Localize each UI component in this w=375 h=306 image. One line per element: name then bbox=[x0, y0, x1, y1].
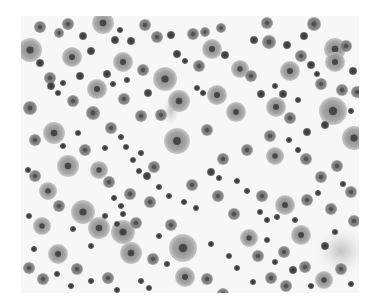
medium-cell bbox=[155, 109, 167, 121]
medium-cell bbox=[265, 272, 277, 284]
medium-cell bbox=[79, 144, 91, 156]
medium-cell bbox=[245, 70, 257, 82]
large-cell bbox=[90, 161, 108, 179]
small-cell bbox=[234, 265, 240, 271]
medium-cell bbox=[118, 93, 130, 105]
small-cell bbox=[87, 47, 95, 55]
small-cell bbox=[114, 287, 120, 293]
large-cell bbox=[325, 52, 345, 72]
small-cell bbox=[315, 190, 321, 196]
small-cell bbox=[88, 278, 94, 284]
medium-cell bbox=[29, 170, 41, 182]
large-cell bbox=[88, 217, 110, 239]
small-cell bbox=[181, 199, 187, 205]
large-cell bbox=[33, 217, 51, 235]
small-cell bbox=[102, 213, 108, 219]
nucleus bbox=[321, 277, 326, 282]
nucleus bbox=[161, 75, 168, 82]
medium-cell bbox=[262, 35, 276, 49]
medium-cell bbox=[151, 31, 163, 43]
medium-cell bbox=[284, 112, 296, 124]
nucleus bbox=[79, 208, 86, 215]
small-cell bbox=[68, 283, 74, 289]
small-cell bbox=[264, 237, 270, 243]
nucleus bbox=[214, 92, 220, 98]
large-cell bbox=[48, 244, 68, 264]
small-cell bbox=[60, 143, 66, 149]
large-cell bbox=[62, 47, 82, 67]
small-cell bbox=[130, 157, 136, 163]
large-cell bbox=[275, 195, 295, 215]
small-cell bbox=[144, 89, 152, 97]
medium-cell bbox=[105, 122, 117, 134]
large-cell bbox=[291, 225, 311, 245]
small-cell bbox=[25, 167, 31, 173]
large-cell bbox=[57, 155, 79, 177]
small-cell bbox=[118, 203, 124, 209]
small-cell bbox=[164, 261, 170, 267]
small-cell bbox=[156, 233, 162, 239]
medium-cell bbox=[102, 272, 114, 284]
small-cell bbox=[120, 211, 126, 217]
nucleus bbox=[176, 98, 183, 105]
nucleus bbox=[96, 225, 103, 232]
nucleus bbox=[119, 228, 126, 235]
medium-cell bbox=[256, 190, 268, 202]
large-cell bbox=[202, 39, 222, 59]
small-cell bbox=[221, 51, 229, 59]
medium-cell bbox=[124, 188, 136, 200]
large-cell bbox=[315, 271, 333, 289]
large-cell bbox=[168, 90, 190, 112]
large-cell bbox=[164, 128, 190, 154]
medium-cell bbox=[331, 160, 343, 172]
nucleus bbox=[182, 274, 188, 280]
small-cell bbox=[111, 195, 117, 201]
small-cell bbox=[47, 82, 55, 90]
nucleus bbox=[94, 86, 100, 92]
small-cell bbox=[123, 144, 129, 150]
medium-cell bbox=[345, 186, 357, 198]
small-cell bbox=[303, 128, 311, 136]
nucleus bbox=[96, 167, 101, 172]
large-cell bbox=[21, 38, 42, 62]
small-cell bbox=[307, 61, 315, 69]
medium-cell bbox=[261, 17, 273, 29]
small-cell bbox=[194, 85, 200, 91]
small-cell bbox=[332, 229, 338, 235]
medium-cell bbox=[307, 17, 321, 31]
large-cell bbox=[153, 67, 177, 91]
small-cell bbox=[283, 41, 291, 49]
small-cell bbox=[114, 221, 120, 227]
large-cell bbox=[92, 16, 114, 34]
small-cell bbox=[146, 285, 152, 291]
small-cell bbox=[111, 36, 119, 44]
small-cell bbox=[244, 188, 250, 194]
large-cell bbox=[169, 234, 197, 262]
medium-cell bbox=[295, 50, 307, 62]
medium-cell bbox=[216, 23, 226, 33]
medium-cell bbox=[139, 19, 151, 31]
small-cell bbox=[143, 172, 151, 180]
medium-cell bbox=[299, 261, 311, 273]
nucleus bbox=[128, 250, 135, 257]
small-cell bbox=[272, 83, 278, 89]
nucleus bbox=[332, 46, 339, 53]
small-cell bbox=[55, 90, 61, 96]
medium-cell bbox=[228, 208, 240, 220]
medium-cell bbox=[53, 200, 65, 212]
large-cell bbox=[120, 242, 142, 264]
small-cell bbox=[26, 213, 32, 219]
small-cell bbox=[286, 137, 292, 143]
medium-cell bbox=[201, 273, 213, 285]
small-cell bbox=[250, 279, 256, 285]
medium-cell bbox=[241, 144, 253, 156]
nucleus bbox=[272, 153, 277, 158]
medium-cell bbox=[71, 263, 83, 275]
medium-cell bbox=[315, 78, 327, 90]
small-cell bbox=[193, 205, 199, 211]
medium-cell bbox=[135, 110, 147, 122]
medium-cell bbox=[165, 219, 177, 231]
medium-cell bbox=[264, 130, 276, 142]
medium-cell bbox=[252, 250, 264, 262]
nucleus bbox=[332, 59, 338, 65]
